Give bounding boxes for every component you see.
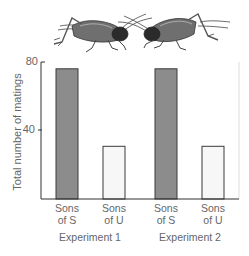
bar-exp2-sons-of-s: [155, 69, 177, 199]
category-label: Sons of S: [47, 202, 87, 226]
group-label-experiment-1: Experiment 1: [45, 231, 135, 243]
category-label-line: Sons: [146, 202, 186, 214]
bar-exp1-sons-of-u: [103, 146, 125, 199]
group-label-experiment-2: Experiment 2: [145, 231, 235, 243]
category-label-line: of U: [193, 214, 233, 226]
category-label-line: of S: [47, 214, 87, 226]
y-tick-label-40: 40: [13, 123, 35, 135]
category-label-line: Sons: [193, 202, 233, 214]
category-label: Sons of U: [193, 202, 233, 226]
bar-exp1-sons-of-s: [56, 69, 78, 199]
category-label-line: of S: [146, 214, 186, 226]
category-label-line: Sons: [47, 202, 87, 214]
y-tick-label-80: 80: [16, 55, 38, 67]
category-label: Sons of S: [146, 202, 186, 226]
category-label: Sons of U: [94, 202, 134, 226]
category-label-line: of U: [94, 214, 134, 226]
bar-exp2-sons-of-u: [202, 146, 224, 199]
category-label-line: Sons: [94, 202, 134, 214]
